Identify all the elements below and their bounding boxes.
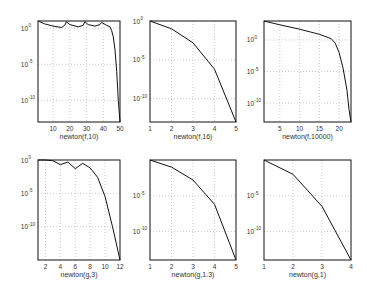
y-tick-exponent: -5 xyxy=(255,191,259,196)
y-tick-label: 10 xyxy=(21,190,29,197)
x-axis-label: newton(f,10) xyxy=(60,133,99,141)
subplot-2: 1234510010-510-10newton(f,16) xyxy=(133,16,238,141)
y-tick-label: 10 xyxy=(133,56,141,63)
y-tick-exponent: -10 xyxy=(255,226,262,231)
x-tick-label: 20 xyxy=(66,125,74,132)
x-axis-label: newton(f,10000) xyxy=(282,133,333,141)
x-tick-label: 1 xyxy=(148,125,152,132)
x-tick-label: 10 xyxy=(49,125,57,132)
y-tick-exponent: -10 xyxy=(29,222,36,227)
x-tick-label: 3 xyxy=(320,263,324,270)
x-tick-label: 4 xyxy=(213,263,217,270)
x-axis-label: newton(f,16) xyxy=(174,133,213,141)
y-tick-label: 10 xyxy=(21,61,29,68)
data-line xyxy=(264,21,351,122)
x-tick-label: 1 xyxy=(262,263,266,270)
x-tick-label: 4 xyxy=(59,263,63,270)
x-tick-label: 10 xyxy=(101,263,109,270)
y-tick-exponent: 0 xyxy=(29,23,32,28)
axes-frame xyxy=(38,160,120,260)
y-tick-label: 10 xyxy=(133,18,141,25)
y-tick-label: 10 xyxy=(247,228,255,235)
y-tick-label: 10 xyxy=(247,36,255,43)
x-tick-label: 40 xyxy=(100,125,108,132)
x-tick-label: 5 xyxy=(234,125,238,132)
x-tick-label: 30 xyxy=(83,125,91,132)
x-tick-label: 12 xyxy=(116,263,124,270)
data-line xyxy=(38,160,120,260)
subplot-5: 1234510-510-10newton(g,1.3) xyxy=(133,160,238,279)
y-tick-label: 10 xyxy=(247,192,255,199)
y-tick-label: 10 xyxy=(247,68,255,75)
axes-frame xyxy=(264,160,351,260)
y-tick-exponent: -5 xyxy=(141,191,145,196)
x-tick-label: 5 xyxy=(234,263,238,270)
y-tick-exponent: -5 xyxy=(29,188,33,193)
y-tick-label: 10 xyxy=(247,100,255,107)
subplot-3: 510152010010-510-10newton(f,10000) xyxy=(247,21,351,141)
y-tick-exponent: -5 xyxy=(29,59,33,64)
x-tick-label: 1 xyxy=(148,263,152,270)
data-line xyxy=(264,160,351,260)
x-tick-label: 10 xyxy=(296,125,304,132)
x-tick-label: 3 xyxy=(191,125,195,132)
x-tick-label: 4 xyxy=(213,125,217,132)
x-tick-label: 50 xyxy=(116,125,124,132)
x-tick-label: 15 xyxy=(316,125,324,132)
y-tick-exponent: -5 xyxy=(255,67,259,72)
axes-frame xyxy=(264,21,351,122)
x-axis-label: newton(g,1) xyxy=(289,271,326,279)
y-tick-label: 10 xyxy=(21,25,29,32)
x-tick-label: 5 xyxy=(278,125,282,132)
x-axis-label: newton(g,3) xyxy=(61,271,98,279)
subplot-4: 2468101210010-510-10newton(g,3) xyxy=(21,155,124,279)
y-tick-label: 10 xyxy=(133,228,141,235)
subplot-6: 123410-510-10newton(g,1) xyxy=(247,160,353,279)
y-tick-exponent: -10 xyxy=(141,226,148,231)
x-tick-label: 4 xyxy=(349,263,353,270)
y-tick-label: 10 xyxy=(133,192,141,199)
y-tick-label: 10 xyxy=(133,95,141,102)
axes-frame xyxy=(38,21,120,122)
x-tick-label: 2 xyxy=(170,125,174,132)
y-tick-label: 10 xyxy=(21,223,29,230)
x-tick-label: 2 xyxy=(170,263,174,270)
y-tick-exponent: -10 xyxy=(141,94,148,99)
data-line xyxy=(38,21,120,122)
y-tick-exponent: 0 xyxy=(29,155,32,160)
y-tick-exponent: -5 xyxy=(141,55,145,60)
figure: 102030405010010-510-10newton(f,10)123451… xyxy=(0,0,367,297)
y-tick-label: 10 xyxy=(21,157,29,164)
y-tick-exponent: 0 xyxy=(255,35,258,40)
x-tick-label: 6 xyxy=(73,263,77,270)
x-tick-label: 3 xyxy=(191,263,195,270)
x-tick-label: 2 xyxy=(291,263,295,270)
y-tick-exponent: 0 xyxy=(141,16,144,21)
subplot-1: 102030405010010-510-10newton(f,10) xyxy=(21,21,124,141)
y-tick-label: 10 xyxy=(21,97,29,104)
y-tick-exponent: -10 xyxy=(29,95,36,100)
y-tick-exponent: -10 xyxy=(255,98,262,103)
x-tick-label: 20 xyxy=(336,125,344,132)
x-tick-label: 8 xyxy=(88,263,92,270)
x-tick-label: 2 xyxy=(44,263,48,270)
x-axis-label: newton(g,1.3) xyxy=(172,271,215,279)
